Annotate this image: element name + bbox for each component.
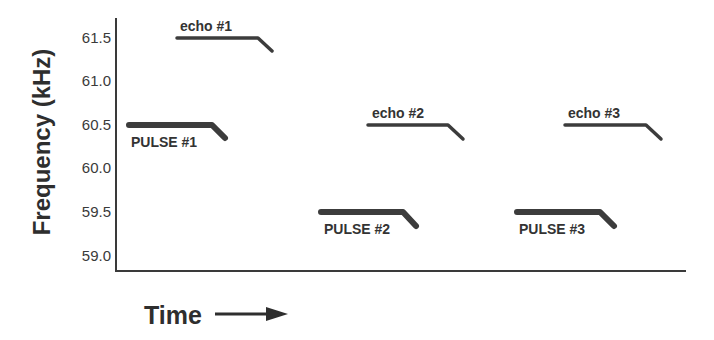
echo-3-trace <box>565 125 661 139</box>
axis-lines <box>116 18 686 271</box>
echo-2-label: echo #2 <box>372 105 424 121</box>
pulse-2: PULSE #2 <box>321 212 416 237</box>
echo-1-trace <box>177 38 272 51</box>
pulse-3: PULSE #3 <box>517 212 614 237</box>
pulse-1: PULSE #1 <box>129 125 225 150</box>
pulse-3-label: PULSE #3 <box>519 221 585 237</box>
y-tick-label: 59.5 <box>82 203 111 220</box>
y-axis-title: Frequency (kHz) <box>28 49 55 236</box>
frequency-time-chart: Frequency (kHz) 61.5 61.0 60.5 60.0 59.5… <box>0 0 714 340</box>
y-tick-label: 60.0 <box>82 159 111 176</box>
echo-3-label: echo #3 <box>568 105 620 121</box>
x-axis-title: Time <box>144 301 202 329</box>
time-arrow-icon <box>215 307 288 321</box>
y-tick-labels: 61.5 61.0 60.5 60.0 59.5 59.0 <box>82 29 111 264</box>
echo-1-label: echo #1 <box>180 18 232 34</box>
y-tick-label: 61.0 <box>82 72 111 89</box>
pulse-2-label: PULSE #2 <box>324 221 390 237</box>
echo-2: echo #2 <box>368 105 463 139</box>
y-tick-label: 61.5 <box>82 29 111 46</box>
y-tick-label: 59.0 <box>82 247 111 264</box>
echo-2-trace <box>368 125 463 139</box>
y-tick-label: 60.5 <box>82 116 111 133</box>
echo-1: echo #1 <box>177 18 272 51</box>
pulse-1-label: PULSE #1 <box>131 134 197 150</box>
echo-3: echo #3 <box>565 105 661 139</box>
